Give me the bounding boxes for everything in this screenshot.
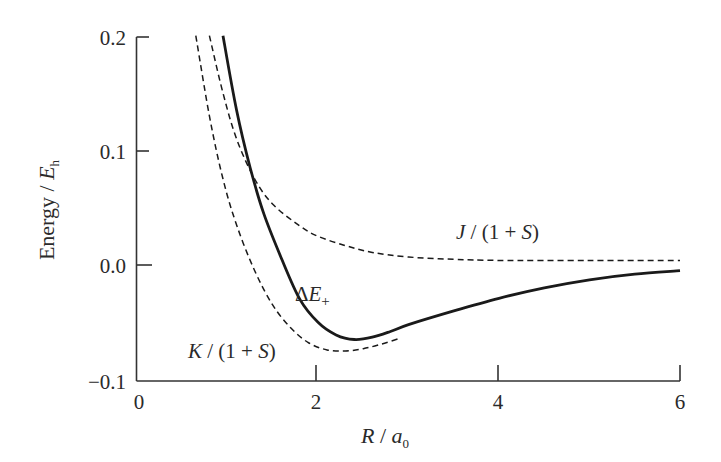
y-tick-label-0.0: 0.0 [100,254,126,278]
x-axis-title: R / a0 [360,423,409,451]
curve-delta-E-plus [223,36,680,340]
y-tick-label-0.1: 0.1 [100,140,126,164]
annotation-K-over-1-plus-S: K / (1 + S) [187,339,276,363]
x-tick-label-6: 6 [675,390,686,414]
energy-curve-chart: 0.2 0.1 0.0 −0.1 0 2 4 6 R / a0 Energy /… [0,0,721,462]
curves [196,36,680,351]
y-tick-label-0.2: 0.2 [100,26,126,50]
x-tick-label-0: 0 [134,390,145,414]
y-tick-label-neg0.1: −0.1 [88,370,126,394]
axes [137,37,681,381]
curve-J-over-1-plus-S [209,36,680,261]
annotation-J-over-1-plus-S: J / (1 + S) [456,220,539,244]
y-axis-title: Energy / Eh [34,159,62,260]
x-tick-label-4: 4 [493,390,504,414]
annotation-delta-E-plus: ΔE+ [295,282,330,309]
x-tick-label-2: 2 [311,390,322,414]
